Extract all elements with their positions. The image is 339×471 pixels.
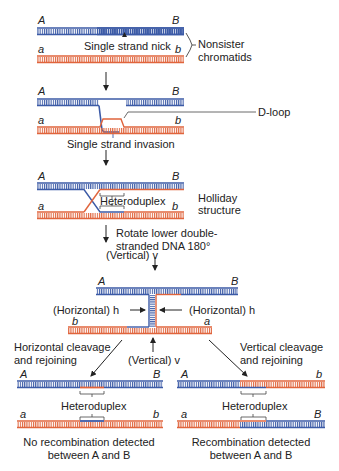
outcome-right-result-line1: Recombination detected: [176, 436, 326, 448]
step3-label-a: a: [38, 200, 44, 212]
step4-label-b: b: [72, 315, 78, 327]
heteroduplex-label-right: Heteroduplex: [222, 400, 287, 412]
outcome-left-result-line2: between A and B: [14, 449, 164, 461]
horizontal-cleavage-line1: Horizontal cleavage: [14, 341, 111, 353]
outcome-right-label-b: b: [316, 368, 322, 380]
step1-label-b: b: [175, 43, 181, 55]
vertical-cleavage-line2: and rejoining: [240, 354, 303, 366]
outcome-right-result-line2: between A and B: [176, 449, 326, 461]
outcome-left-result-line1: No recombination detected: [14, 436, 164, 448]
single-strand-invasion-label: Single strand invasion: [67, 138, 175, 150]
step2-label-b: b: [175, 114, 181, 126]
step4-label-a: a: [204, 315, 210, 327]
step1-label-B: B: [172, 14, 179, 26]
step3-label-A: A: [38, 170, 45, 182]
horizontal-h-label-right: (Horizontal) h: [189, 304, 255, 316]
vertical-cleavage-line1: Vertical cleavage: [240, 341, 323, 353]
outcome-right-label-a: a: [181, 408, 187, 420]
step2-label-a: a: [38, 114, 44, 126]
step2-label-A: A: [38, 85, 45, 97]
holliday-label-line1: Holliday: [198, 192, 237, 204]
step1-label-A: A: [38, 14, 45, 26]
nonsister-label-line2: chromatids: [198, 51, 252, 63]
step3-label-B: B: [172, 170, 179, 182]
vertical-v-label-top: (Vertical) v: [106, 249, 158, 261]
vertical-v-label-bottom: (Vertical) v: [128, 354, 180, 366]
step1-bottom-duplex: [37, 56, 184, 63]
step2-label-B: B: [172, 85, 179, 97]
holliday-label-line2: structure: [198, 204, 241, 216]
outcome-left-label-a: a: [20, 408, 26, 420]
outcome-left-label-B: B: [153, 368, 160, 380]
nonsister-label-line1: Nonsister: [198, 38, 244, 50]
outcome-right-label-A: A: [181, 368, 188, 380]
heteroduplex-label-left: Heteroduplex: [61, 400, 126, 412]
heteroduplex-label-step3: Heteroduplex: [100, 195, 165, 207]
dloop-label: D-loop: [258, 106, 290, 118]
single-strand-nick-label: Single strand nick: [84, 40, 171, 52]
outcome-left-label-A: A: [20, 368, 27, 380]
outcome-left-label-b: b: [153, 408, 159, 420]
step4-label-A: A: [98, 275, 105, 287]
horizontal-h-label-left: (Horizontal) h: [53, 304, 119, 316]
horizontal-cleavage-line2: and rejoining: [14, 354, 77, 366]
outcome-right-label-B: B: [314, 408, 321, 420]
rotate-label-line1: Rotate lower double-: [116, 227, 218, 239]
step3-label-b: b: [172, 200, 178, 212]
dloop-pointer-line: [124, 112, 256, 118]
step1-label-a: a: [38, 43, 44, 55]
step4-label-B: B: [231, 275, 238, 287]
chromatid-brace-icon: [186, 33, 196, 57]
step2-bottom-duplex: [37, 119, 184, 134]
step1-top-duplex: [37, 28, 184, 35]
